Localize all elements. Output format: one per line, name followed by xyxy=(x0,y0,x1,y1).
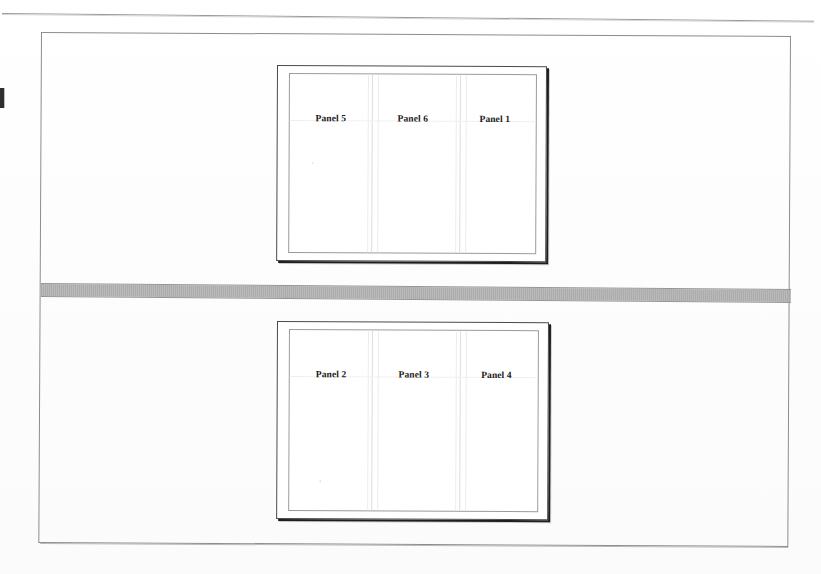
panel-guide-line xyxy=(367,330,369,510)
scanned-page: Panel 5 Panel 6 Panel 1 xyxy=(0,0,821,574)
panel-guide-line xyxy=(455,331,457,511)
slide-inner-border: Panel 5 Panel 6 Panel 1 xyxy=(288,73,537,254)
scan-speckle xyxy=(312,162,314,164)
panel-label-5: Panel 5 xyxy=(315,114,346,124)
panel-guide-line xyxy=(367,74,369,252)
panel-guide-line xyxy=(459,331,461,511)
panel-guide-line xyxy=(459,75,461,253)
panel-label-4: Panel 4 xyxy=(481,371,512,381)
panel-cell: Panel 3 xyxy=(372,363,455,381)
panel-label-2: Panel 2 xyxy=(316,370,347,380)
panel-label-row-top: Panel 5 Panel 6 Panel 1 xyxy=(290,107,536,126)
panel-label-1: Panel 1 xyxy=(479,115,510,125)
panel-cell: Panel 4 xyxy=(455,364,538,382)
panel-guide-line xyxy=(465,331,467,511)
panel-guide-line xyxy=(371,74,373,252)
scan-speckle xyxy=(319,480,321,482)
panel-guide-line xyxy=(371,330,373,510)
panel-cell: Panel 2 xyxy=(290,363,373,381)
panel-label-row-bottom: Panel 2 Panel 3 Panel 4 xyxy=(290,363,538,382)
panel-label-3: Panel 3 xyxy=(398,371,429,381)
scan-edge-mark-icon xyxy=(0,88,4,108)
slide-figure-top[interactable]: Panel 5 Panel 6 Panel 1 xyxy=(276,65,547,262)
slide-inner-border: Panel 2 Panel 3 Panel 4 xyxy=(288,329,539,512)
panel-cell: Panel 5 xyxy=(290,107,372,125)
panel-guide-line xyxy=(377,74,379,252)
panel-cell: Panel 6 xyxy=(372,107,454,125)
horizontal-rule-top xyxy=(2,13,814,22)
panel-guide-line xyxy=(455,75,457,253)
panel-guide-line xyxy=(465,75,467,253)
panel-guide-line xyxy=(377,330,379,510)
panel-label-6: Panel 6 xyxy=(397,115,428,125)
panel-cell: Panel 1 xyxy=(454,108,536,126)
slide-figure-bottom[interactable]: Panel 2 Panel 3 Panel 4 xyxy=(276,321,549,520)
